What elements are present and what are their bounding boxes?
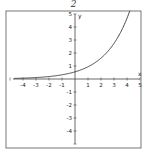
y-tick-label: 2 xyxy=(69,50,73,56)
y-tick-label: 3 xyxy=(69,37,73,43)
y-tick-label: -3 xyxy=(67,115,73,121)
tick-labels: -4-3-2-112345-4-3-2-112345 xyxy=(20,11,142,134)
function-curve xyxy=(14,11,130,78)
x-tick-label: 1 xyxy=(86,82,90,88)
y-axis-label: y xyxy=(78,12,82,20)
y-tick-label: 1 xyxy=(69,63,73,69)
x-tick-label: 5 xyxy=(138,82,142,88)
x-tick-label: 4 xyxy=(125,82,129,88)
y-tick-label: -4 xyxy=(67,128,73,134)
x-tick-label: 2 xyxy=(99,82,103,88)
x-tick-label: -4 xyxy=(20,82,26,88)
axes xyxy=(13,14,140,144)
exponential-graph: -4-3-2-112345-4-3-2-112345 x y xyxy=(0,0,147,155)
x-tick-label: 3 xyxy=(112,82,116,88)
x-axis-label: x xyxy=(138,70,142,77)
x-tick-label: -3 xyxy=(33,82,39,88)
y-tick-label: 5 xyxy=(69,11,73,17)
y-tick-label: 4 xyxy=(69,24,73,30)
y-tick-label: -2 xyxy=(67,102,72,108)
x-tick-label: -2 xyxy=(46,82,51,88)
y-tick-label: -1 xyxy=(67,89,72,95)
x-tick-label: -1 xyxy=(59,82,64,88)
